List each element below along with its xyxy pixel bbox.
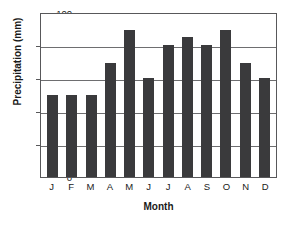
bar-M-4 — [124, 30, 135, 177]
x-tick-label-3: A — [104, 181, 115, 192]
x-tick-label-7: A — [182, 181, 193, 192]
y-axis-title: Precipitation (mm) — [12, 0, 23, 137]
bar-D-11 — [259, 78, 270, 177]
x-tick-label-8: S — [201, 181, 212, 192]
x-tick-label-0: J — [46, 181, 57, 192]
x-tick-label-2: M — [85, 181, 96, 192]
x-tick-label-6: J — [163, 181, 174, 192]
x-axis-tick-group: JFMAMJJASOND — [40, 181, 277, 192]
bar-O-9 — [220, 30, 231, 177]
bar-series — [41, 14, 276, 177]
x-tick-label-1: F — [66, 181, 77, 192]
bar-S-8 — [201, 45, 212, 177]
x-tick-label-11: D — [260, 181, 271, 192]
x-tick-label-10: N — [240, 181, 251, 192]
plot-area — [40, 13, 277, 178]
bar-M-2 — [86, 95, 97, 178]
bar-A-7 — [182, 37, 193, 177]
bar-A-3 — [105, 63, 116, 177]
precipitation-bar-chart: Precipitation (mm) 100 80 60 40 20 0 JFM… — [0, 0, 293, 225]
bar-N-10 — [240, 63, 251, 177]
bar-J-0 — [47, 95, 58, 178]
x-tick-label-4: M — [124, 181, 135, 192]
x-tick-label-9: O — [221, 181, 232, 192]
x-tick-label-5: J — [143, 181, 154, 192]
bar-J-5 — [143, 78, 154, 177]
bar-J-6 — [163, 45, 174, 177]
bar-F-1 — [66, 95, 77, 178]
x-axis-title: Month — [40, 201, 277, 212]
